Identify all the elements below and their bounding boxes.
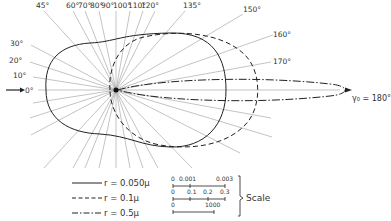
angle-label: 120° <box>141 1 159 10</box>
scale-tick: 0.001 <box>179 175 196 182</box>
scale-title: Scale <box>246 193 271 203</box>
axis-end-label: γ₀ = 180° <box>352 94 391 103</box>
angle-label: 135° <box>183 1 201 10</box>
legend-label-r-05: r = 0.5μ <box>104 208 140 218</box>
scattering-polar-diagram: 45° 60° 70° 80° 90° 100° 110° 120° 135° … <box>0 0 391 221</box>
scale-tick-labels: 0 0.001 0.003 0 0.1 0.2 0.3 0 1000 <box>171 175 233 208</box>
angle-label: 160° <box>273 30 291 39</box>
angle-label: 170° <box>273 57 291 66</box>
angle-label: 150° <box>243 5 261 14</box>
angle-label: 20° <box>9 56 23 65</box>
legend-label-r-01: r = 0.1μ <box>104 193 140 203</box>
legend-label-r-0050: r = 0.050μ <box>104 178 150 188</box>
angle-label: 30° <box>10 39 24 48</box>
legend: r = 0.050μ r = 0.1μ r = 0.5μ <box>72 178 150 218</box>
scale-tick: 0.003 <box>216 175 233 182</box>
scale-tick: 0.2 <box>203 188 213 195</box>
scale-tick: 0 <box>171 201 175 208</box>
scale-bars <box>173 176 243 216</box>
scale-tick: 0.3 <box>220 188 230 195</box>
arrow-right-icon <box>345 88 352 93</box>
scale-tick: 0.1 <box>187 188 197 195</box>
arrow-right-icon <box>6 88 25 93</box>
scale-tick: 0 <box>171 188 175 195</box>
angle-label: 45° <box>36 1 50 10</box>
angle-label: 0° <box>25 86 34 95</box>
scale-tick: 0 <box>171 175 175 182</box>
angle-labels: 45° 60° 70° 80° 90° 100° 110° 120° 135° … <box>9 1 291 95</box>
angle-label: 10° <box>13 71 27 80</box>
radial-guide-lines <box>30 11 340 168</box>
scale-tick: 1000 <box>205 201 220 208</box>
